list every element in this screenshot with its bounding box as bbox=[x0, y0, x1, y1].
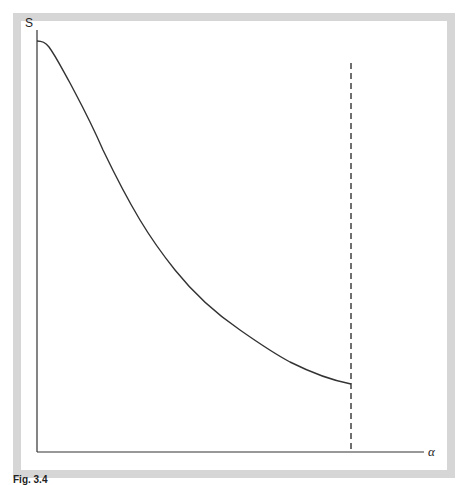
figure-caption: Fig. 3.4 bbox=[13, 474, 47, 485]
x-axis-label: α bbox=[428, 444, 435, 460]
s-curve bbox=[37, 41, 351, 384]
y-axis-label: S bbox=[25, 16, 33, 30]
